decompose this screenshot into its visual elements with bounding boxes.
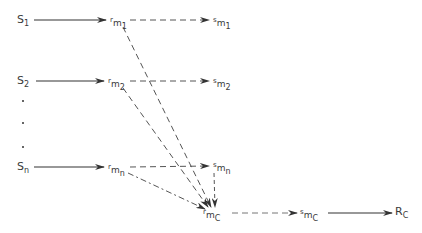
ellipsis-dot bbox=[22, 146, 24, 148]
label-rmc: rmC bbox=[203, 206, 220, 225]
label-s2: S2 bbox=[17, 75, 29, 91]
label-rc: RC bbox=[395, 206, 408, 222]
arrows-layer bbox=[0, 0, 422, 233]
arrow-rmn-smn bbox=[130, 166, 209, 167]
label-rmn: rmn bbox=[108, 161, 125, 180]
label-s1: S1 bbox=[17, 14, 29, 30]
label-rm1: rm1 bbox=[110, 14, 127, 33]
arrow-smn-rmc bbox=[214, 173, 215, 207]
label-rm2: rm2 bbox=[108, 75, 125, 94]
label-sm1: sm1 bbox=[213, 14, 231, 33]
mediation-diagram: S1 S2 Sn rm1 rm2 rmn rmC sm1 sm2 smn smC… bbox=[0, 0, 422, 233]
label-smn: smn bbox=[213, 159, 231, 178]
label-sm2: sm2 bbox=[213, 75, 231, 94]
arrow-rmn-rmc bbox=[128, 173, 205, 209]
ellipsis-dot bbox=[22, 122, 24, 124]
ellipsis-dot bbox=[22, 100, 24, 102]
arrow-rm2-rmc bbox=[123, 88, 208, 207]
label-sn: Sn bbox=[17, 161, 29, 177]
label-smc: smC bbox=[300, 206, 318, 225]
arrow-rm1-rmc bbox=[123, 27, 211, 207]
